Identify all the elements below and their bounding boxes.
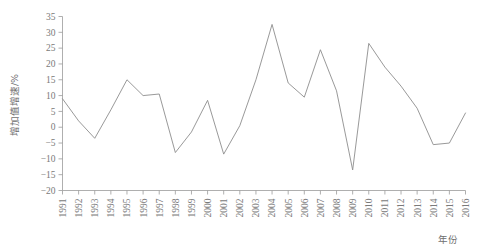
- x-tick-label: 2013: [413, 198, 423, 217]
- y-axis-ticks: [59, 17, 63, 191]
- x-tick-label: 2014: [429, 198, 439, 217]
- x-tick-label: 1994: [106, 198, 116, 217]
- x-tick-label: 2005: [284, 198, 294, 217]
- x-tick-label: 2016: [461, 198, 471, 217]
- y-tick-label: 35: [46, 12, 56, 22]
- y-tick-label: 5: [51, 107, 56, 117]
- x-tick-label: 1999: [187, 198, 197, 217]
- y-axis: 35302520151050−5−10−15−20: [41, 12, 63, 196]
- x-tick-label: 2008: [332, 198, 342, 217]
- y-tick-label: 25: [46, 43, 56, 53]
- x-axis: 1991199219931994199519961997199819992000…: [58, 191, 471, 218]
- data-series-line: [63, 24, 466, 170]
- x-tick-label: 2011: [380, 198, 390, 217]
- y-tick-label: −5: [45, 138, 55, 148]
- x-tick-label: 2006: [300, 198, 310, 217]
- x-tick-label: 2015: [445, 198, 455, 217]
- x-tick-label: 2012: [396, 198, 406, 217]
- x-tick-label: 1995: [122, 198, 132, 217]
- x-axis-tick-labels: 1991199219931994199519961997199819992000…: [58, 198, 471, 217]
- y-axis-title: 增加值增速/%: [9, 74, 20, 136]
- x-axis-title: 年份: [438, 234, 458, 245]
- x-tick-label: 2002: [235, 198, 245, 217]
- y-tick-label: 20: [46, 59, 56, 69]
- x-tick-label: 1992: [74, 198, 84, 217]
- line-chart: 35302520151050−5−10−15−20 19911992199319…: [0, 0, 489, 249]
- x-tick-label: 2001: [219, 198, 229, 217]
- x-tick-label: 2009: [348, 198, 358, 217]
- x-tick-label: 2000: [203, 198, 213, 217]
- x-tick-label: 2010: [364, 198, 374, 217]
- y-tick-label: −15: [41, 170, 56, 180]
- x-tick-label: 1996: [139, 198, 149, 217]
- x-tick-label: 1993: [90, 198, 100, 217]
- x-tick-label: 2003: [251, 198, 261, 217]
- y-tick-label: 15: [46, 75, 56, 85]
- y-tick-label: −20: [41, 186, 56, 196]
- x-tick-label: 1997: [155, 198, 165, 217]
- x-axis-ticks: [63, 191, 466, 195]
- y-tick-label: −10: [41, 154, 56, 164]
- chart-canvas: 35302520151050−5−10−15−20 19911992199319…: [0, 0, 489, 249]
- y-tick-label: 0: [51, 122, 56, 132]
- x-tick-label: 1998: [171, 198, 181, 217]
- x-tick-label: 2007: [316, 198, 326, 217]
- x-tick-label: 1991: [58, 198, 68, 217]
- y-tick-label: 30: [46, 28, 56, 38]
- x-tick-label: 2004: [267, 198, 277, 217]
- y-axis-tick-labels: 35302520151050−5−10−15−20: [41, 12, 56, 196]
- y-tick-label: 10: [46, 91, 56, 101]
